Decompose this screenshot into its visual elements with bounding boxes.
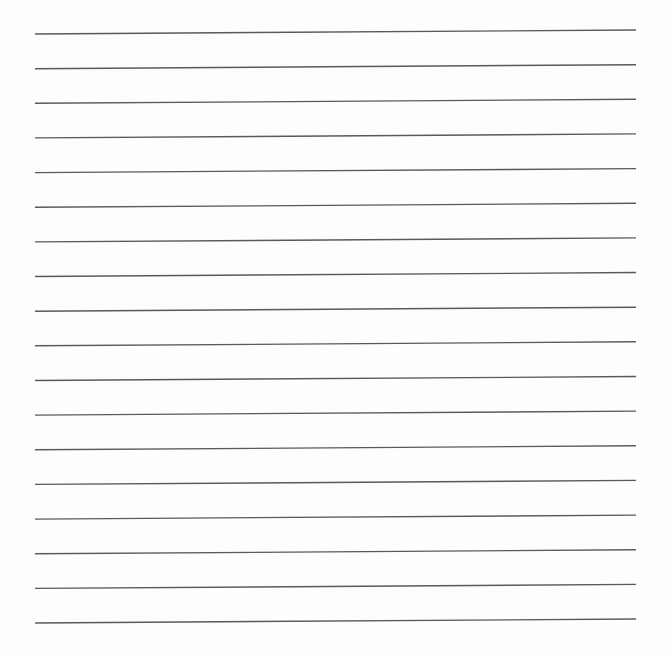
ruled-line [35,203,636,207]
ruled-line [35,342,636,346]
ruled-line [35,238,636,242]
ruled-line [35,307,636,311]
lined-paper-page [0,0,671,658]
ruled-line [35,30,636,34]
ruled-line [35,134,636,138]
ruled-line [35,65,636,69]
ruled-line [35,169,636,173]
ruled-line [35,273,636,277]
ruled-line [35,550,636,554]
ruled-line [35,446,636,450]
ruled-lines [0,0,671,658]
ruled-line [35,99,636,103]
ruled-line [35,480,636,484]
ruled-line [35,377,636,381]
ruled-line [35,515,636,519]
ruled-line [35,411,636,415]
ruled-line [35,619,636,623]
ruled-line [35,584,636,588]
